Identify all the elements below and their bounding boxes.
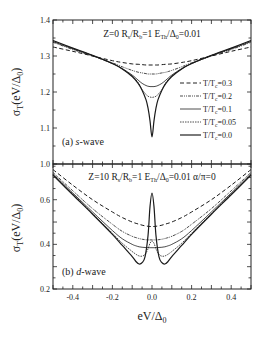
tick-label: -0.4 bbox=[66, 293, 79, 302]
top-annotation: Z=0 Rs/Rb=1 ETh/Δ0=0.01 bbox=[103, 29, 201, 40]
tick-label: 0.4 bbox=[40, 240, 50, 249]
legend: T/Tc=0.3 T/Tc=0.2 T/Tc=0.1 T/Tc=0.05 T/T… bbox=[180, 79, 236, 141]
tick-label: 1.2 bbox=[40, 88, 50, 97]
legend-item: T/Tc=0.1 bbox=[180, 105, 232, 115]
tick-label: 1.0 bbox=[40, 160, 50, 169]
bottom-panel-label: (b) d-wave bbox=[62, 266, 106, 278]
tick-labels: 1.01.11.21.31.40.20.40.6-0.4-0.20.00.20.… bbox=[40, 16, 236, 302]
bottom-panel-curves bbox=[53, 170, 251, 264]
tick-label: 0.6 bbox=[40, 196, 50, 205]
series-t-tc-0-3 bbox=[53, 47, 251, 65]
svg-text:T/Tc=0.0: T/Tc=0.0 bbox=[203, 131, 232, 141]
tick-label: 1.1 bbox=[40, 124, 50, 133]
tick-label: 0.0 bbox=[147, 293, 157, 302]
tick-label: -0.2 bbox=[106, 293, 119, 302]
svg-text:T/Tc=0.1: T/Tc=0.1 bbox=[203, 105, 232, 115]
bottom-y-axis-label: σT(eV/Δ0) bbox=[9, 204, 25, 252]
series-t-tc-0-1 bbox=[53, 174, 251, 248]
legend-item: T/Tc=0.3 bbox=[180, 79, 232, 89]
tick-label: 1.3 bbox=[40, 52, 50, 61]
svg-text:T/Tc=0.3: T/Tc=0.3 bbox=[203, 79, 232, 89]
series-t-tc-0-2 bbox=[53, 42, 251, 74]
legend-item: T/Tc=0.05 bbox=[180, 118, 236, 128]
series-t-tc-0-0 bbox=[53, 175, 251, 264]
figure: 1.01.11.21.31.40.20.40.6-0.4-0.20.00.20.… bbox=[0, 0, 263, 338]
svg-text:T/Tc=0.2: T/Tc=0.2 bbox=[203, 92, 232, 102]
tick-label: 0.2 bbox=[40, 285, 50, 294]
axis-ticks bbox=[53, 20, 251, 289]
svg-text:T/Tc=0.05: T/Tc=0.05 bbox=[203, 118, 236, 128]
series-t-tc-0-05 bbox=[53, 175, 251, 257]
tick-label: 0.4 bbox=[226, 293, 236, 302]
legend-item: T/Tc=0.0 bbox=[180, 131, 232, 141]
tick-label: 1.4 bbox=[40, 16, 50, 25]
legend-item: T/Tc=0.2 bbox=[180, 92, 232, 102]
top-panel-label: (a) s-wave bbox=[62, 136, 105, 148]
series-t-tc-0-05 bbox=[53, 41, 251, 98]
bottom-annotation: Z=10 Rs/Rb=1 ETh/Δ0=0.01 α/π=0 bbox=[88, 172, 216, 183]
tick-label: 0.2 bbox=[187, 293, 197, 302]
x-axis-label: eV/Δ0 bbox=[137, 309, 166, 325]
top-y-axis-label: σT(eV/Δ0) bbox=[9, 68, 25, 116]
